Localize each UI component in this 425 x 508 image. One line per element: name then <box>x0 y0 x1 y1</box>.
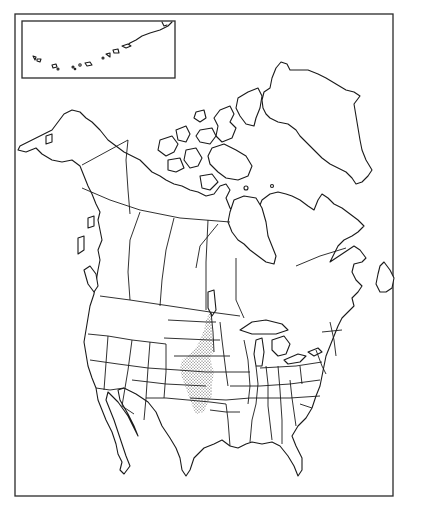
north-america-map <box>0 0 425 508</box>
greenland <box>262 62 372 184</box>
coastal-island <box>78 236 84 254</box>
alaska-island <box>46 134 52 144</box>
aleutian-inset <box>22 21 175 78</box>
coastal-island <box>88 216 94 228</box>
newfoundland <box>376 262 394 292</box>
vancouver-island <box>84 266 98 292</box>
